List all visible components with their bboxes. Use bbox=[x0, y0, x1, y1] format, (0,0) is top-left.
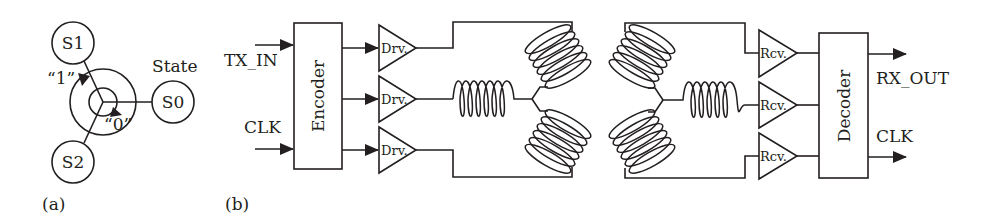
state-diagram: S0 S1 S2 State “1” “0” (a) bbox=[42, 22, 198, 214]
tx-junction-up bbox=[532, 87, 548, 99]
clk-in-label: CLK bbox=[244, 117, 281, 137]
rx-bottom-wire bbox=[625, 156, 759, 178]
tx-coil-horizontal bbox=[453, 81, 532, 116]
spoke-s2 bbox=[84, 102, 103, 143]
rx-coil-lower bbox=[606, 105, 678, 178]
rx-coil-horizontal bbox=[663, 82, 759, 117]
spoke-s1 bbox=[84, 61, 103, 102]
rx-coil-upper bbox=[606, 20, 678, 93]
encoder-label: Encoder bbox=[308, 59, 328, 132]
transceiver-diagram: TX_IN CLK Encoder Drv. Drv. Drv. bbox=[224, 20, 950, 214]
tx-coil-upper bbox=[522, 20, 594, 93]
rx-junction-up bbox=[648, 88, 663, 100]
state-s0-label: S0 bbox=[162, 92, 184, 112]
receiver-3-label: Rcv. bbox=[760, 149, 787, 164]
transition-label-one: “1” bbox=[47, 68, 75, 88]
tx-bottom-wire bbox=[416, 150, 572, 177]
diagram-canvas: S0 S1 S2 State “1” “0” (a) TX_IN CLK Enc… bbox=[0, 0, 994, 222]
transition-label-zero: “0” bbox=[104, 114, 132, 134]
clk-out-label: CLK bbox=[876, 126, 913, 146]
driver-1-label: Drv. bbox=[381, 41, 408, 56]
tx-in-label: TX_IN bbox=[224, 50, 278, 70]
tx-coil-lower bbox=[522, 105, 594, 178]
decoder-label: Decoder bbox=[834, 69, 854, 142]
rx-out-label: RX_OUT bbox=[876, 68, 950, 88]
state-title: State bbox=[152, 56, 198, 76]
state-s1-label: S1 bbox=[62, 33, 84, 53]
receiver-2-label: Rcv. bbox=[760, 98, 787, 113]
driver-3-label: Drv. bbox=[381, 143, 408, 158]
state-s2-label: S2 bbox=[62, 152, 84, 172]
tx-top-wire bbox=[416, 22, 572, 48]
tx-junction-down bbox=[532, 99, 548, 111]
receiver-1-label: Rcv. bbox=[760, 46, 787, 61]
figure-b-label: (b) bbox=[225, 194, 249, 214]
figure-a-label: (a) bbox=[42, 194, 65, 214]
driver-2-label: Drv. bbox=[381, 92, 408, 107]
